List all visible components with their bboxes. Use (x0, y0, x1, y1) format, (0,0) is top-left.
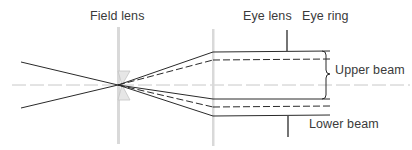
lower-beam-bottom-out (213, 115, 330, 116)
upper-beam-dashed-ray (118, 60, 213, 85)
upper-beam-brace (322, 51, 330, 99)
eye-lens-label: Eye lens (243, 9, 292, 23)
lower-beam-dashed-out (213, 106, 330, 107)
incoming-ray-lower (21, 85, 118, 108)
upper-beam-top-out (213, 51, 330, 52)
eye-lens (212, 29, 215, 146)
lower-beam-dashed-ray (118, 85, 213, 107)
lower-beam-label: Lower beam (309, 117, 379, 131)
upper-beam-dashed-out (213, 59, 330, 60)
upper-beam-label: Upper beam (335, 63, 405, 77)
incoming-ray-upper (21, 62, 118, 85)
upper-beam-top-ray (118, 52, 213, 85)
upper-beam-bottom-ray (118, 85, 213, 99)
eye-ring-label: Eye ring (302, 9, 349, 23)
field-lens-label: Field lens (90, 9, 145, 23)
lower-beam-bottom-ray (118, 85, 213, 116)
